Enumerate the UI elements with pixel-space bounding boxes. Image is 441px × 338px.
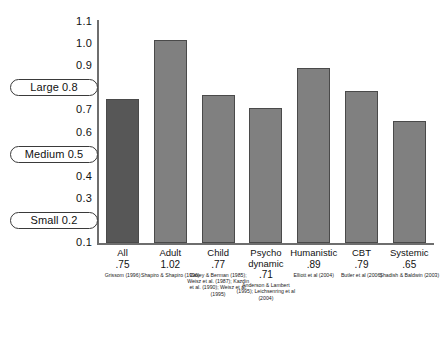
- y-axis-tick: 0.4: [0, 171, 92, 183]
- bar: [154, 40, 187, 243]
- bar: [393, 121, 426, 243]
- x-axis-line: [97, 243, 434, 245]
- y-axis-tick-label: 1.0: [0, 38, 92, 49]
- y-axis-tick-label: 0.1: [0, 237, 92, 248]
- plot-area: [99, 20, 434, 243]
- y-axis-tick-label: 0.7: [0, 104, 92, 115]
- benchmark-pill-large: Large 0.8: [10, 79, 98, 96]
- y-axis-tick: 0.1: [0, 237, 92, 249]
- y-axis-tick-label: 0.6: [0, 127, 92, 138]
- category-value-label: .65: [377, 259, 441, 271]
- bar: [345, 91, 378, 243]
- category-citation: Shadish & Baldwin (2003): [377, 272, 441, 278]
- bar: [297, 68, 330, 243]
- bar: [106, 99, 139, 243]
- y-axis-tick-label: 0.9: [0, 60, 92, 71]
- bar-slot: [202, 20, 235, 243]
- bar-slot: [393, 20, 426, 243]
- benchmark-pill-medium: Medium 0.5: [10, 146, 98, 163]
- y-axis-tick: 1.1: [0, 16, 92, 28]
- y-axis-tick-label: 1.1: [0, 16, 92, 27]
- bar-slot: [249, 20, 282, 243]
- y-axis-tick-label: 0.4: [0, 171, 92, 182]
- category-name: Systemic: [377, 248, 441, 259]
- bar-slot: [345, 20, 378, 243]
- y-axis-tick-label: 0.3: [0, 193, 92, 204]
- y-axis-tick: 0.3: [0, 193, 92, 205]
- category-citation: Anderson & Lambert (1995); Leichsenring …: [234, 282, 298, 301]
- y-axis-tick: 0.9: [0, 60, 92, 72]
- category-label-group: Systemic.65Shadish & Baldwin (2003): [377, 248, 441, 278]
- y-axis-tick: 0.7: [0, 104, 92, 116]
- y-axis-tick: 0.6: [0, 127, 92, 139]
- y-axis-tick: 1.0: [0, 38, 92, 50]
- bar-slot: [154, 20, 187, 243]
- bar-slot: [297, 20, 330, 243]
- bar-slot: [106, 20, 139, 243]
- bar: [249, 108, 282, 243]
- bar: [202, 95, 235, 243]
- benchmark-pill-small: Small 0.2: [10, 212, 98, 229]
